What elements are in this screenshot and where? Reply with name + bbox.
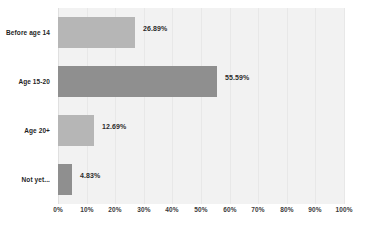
bar[interactable] xyxy=(58,115,94,146)
bar-row: 4.83% xyxy=(58,155,344,204)
x-tick-label: 100% xyxy=(335,206,352,213)
category-label: Age 20+ xyxy=(0,127,50,134)
x-tick-label: 0% xyxy=(53,206,63,213)
x-tick-label: 40% xyxy=(165,206,178,213)
x-tick-label: 10% xyxy=(80,206,93,213)
x-tick-label: 80% xyxy=(280,206,293,213)
bar[interactable] xyxy=(58,164,72,195)
bar-row: 12.69% xyxy=(58,106,344,155)
bar-value-label: 55.59% xyxy=(225,74,249,81)
bar-value-label: 4.83% xyxy=(80,172,100,179)
x-tick-label: 20% xyxy=(108,206,121,213)
bar-row: 55.59% xyxy=(58,57,344,106)
bar[interactable] xyxy=(58,17,135,48)
x-tick-label: 90% xyxy=(308,206,321,213)
x-tick-label: 60% xyxy=(223,206,236,213)
x-tick-label: 70% xyxy=(251,206,264,213)
x-tick-label: 50% xyxy=(194,206,207,213)
bar[interactable] xyxy=(58,66,217,97)
category-label: Not yet... xyxy=(0,176,50,183)
horizontal-bar-chart: 26.89%55.59%12.69%4.83% Before age 14Age… xyxy=(0,0,372,232)
gridline xyxy=(344,8,345,204)
x-tick-label: 30% xyxy=(137,206,150,213)
bar-row: 26.89% xyxy=(58,8,344,57)
bar-value-label: 12.69% xyxy=(102,123,126,130)
x-axis-tick-labels: 0%10%20%30%40%50%60%70%80%90%100% xyxy=(58,206,344,222)
bar-value-label: 26.89% xyxy=(143,25,167,32)
category-label: Age 15-20 xyxy=(0,78,50,85)
category-label: Before age 14 xyxy=(0,29,50,36)
plot-area: 26.89%55.59%12.69%4.83% xyxy=(58,8,344,204)
